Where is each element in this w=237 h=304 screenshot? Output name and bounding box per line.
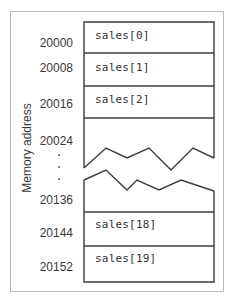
array-cell-label: sales[2] <box>95 93 150 106</box>
ellipsis-dot <box>58 154 60 156</box>
lower-break-zigzag <box>84 170 214 191</box>
array-cell-label: sales[0] <box>95 29 150 42</box>
upper-break-zigzag <box>84 148 214 170</box>
ellipsis-dot <box>58 166 60 168</box>
address-label: 20000 <box>13 36 73 50</box>
address-label: 20152 <box>13 260 73 274</box>
address-label: 20008 <box>13 61 73 75</box>
address-label: 20136 <box>13 193 73 207</box>
y-axis-label: Memory address <box>20 103 34 192</box>
lower-array-outline <box>84 180 214 282</box>
ellipsis-dot <box>58 178 60 180</box>
array-cell-label: sales[18] <box>95 218 156 231</box>
address-label: 20016 <box>13 97 73 111</box>
address-label: 20144 <box>13 226 73 240</box>
array-cell-label: sales[1] <box>95 61 150 74</box>
array-cell-label: sales[19] <box>95 252 156 265</box>
address-label: 20024 <box>13 134 73 148</box>
